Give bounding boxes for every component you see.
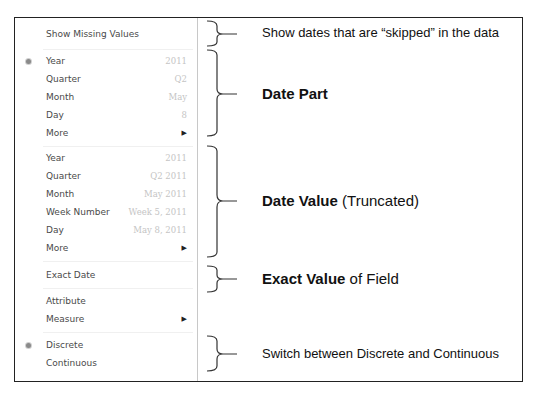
menu-item-date-part-year[interactable]: Year 2011	[15, 53, 197, 70]
menu-divider	[43, 261, 193, 262]
menu-item-date-value-month[interactable]: Month May 2011	[15, 186, 197, 203]
menu-item-measure[interactable]: Measure ▶	[15, 311, 197, 328]
annotation-text: (Truncated)	[338, 192, 419, 209]
diagram-stage: Show Missing Values Year 2011 Quarter Q2…	[0, 0, 537, 396]
menu-item-date-value-more[interactable]: More ▶	[15, 240, 197, 257]
menu-item-label: Day	[46, 222, 64, 239]
menu-item-value: Q2	[175, 71, 187, 88]
menu-item-label: More	[46, 125, 68, 142]
menu-item-date-value-day[interactable]: Day May 8, 2011	[15, 222, 197, 239]
annotation-text: Show dates that are “skipped” in the dat…	[262, 25, 499, 40]
menu-item-date-value-week-number[interactable]: Week Number Week 5, 2011	[15, 204, 197, 221]
submenu-arrow-icon: ▶	[182, 125, 187, 142]
menu-divider	[43, 288, 193, 289]
menu-item-date-part-month[interactable]: Month May	[15, 89, 197, 106]
menu-divider	[43, 49, 193, 50]
annotation-discrete-continuous: Switch between Discrete and Continuous	[262, 346, 499, 361]
menu-divider	[43, 146, 193, 147]
annotation-date-part: Date Part	[262, 85, 328, 102]
menu-item-attribute[interactable]: Attribute	[15, 293, 197, 310]
radio-selected-icon	[26, 59, 31, 64]
menu-item-label: Year	[46, 150, 65, 167]
menu-item-label: Show Missing Values	[46, 26, 139, 43]
menu-right-edge	[197, 18, 198, 381]
annotation-exact-value: Exact Value of Field	[262, 270, 399, 287]
menu-item-label: Exact Date	[46, 267, 95, 284]
menu-item-date-part-day[interactable]: Day 8	[15, 107, 197, 124]
menu-item-show-missing-values[interactable]: Show Missing Values	[15, 26, 197, 43]
menu-item-label: Month	[46, 89, 74, 106]
menu-item-label: More	[46, 240, 68, 257]
radio-selected-icon	[26, 343, 31, 348]
date-field-context-menu: Show Missing Values Year 2011 Quarter Q2…	[15, 18, 197, 381]
menu-item-exact-date[interactable]: Exact Date	[15, 267, 197, 284]
menu-divider	[43, 332, 193, 333]
annotation-show-missing: Show dates that are “skipped” in the dat…	[262, 25, 499, 40]
menu-item-label: Quarter	[46, 71, 81, 88]
menu-item-label: Measure	[46, 311, 84, 328]
annotation-text: of Field	[345, 270, 398, 287]
menu-item-label: Discrete	[46, 337, 83, 354]
menu-item-label: Attribute	[46, 293, 86, 310]
menu-item-date-value-year[interactable]: Year 2011	[15, 150, 197, 167]
menu-item-label: Quarter	[46, 168, 81, 185]
menu-item-value: Week 5, 2011	[129, 204, 187, 221]
annotation-date-value: Date Value (Truncated)	[262, 192, 419, 209]
menu-item-label: Month	[46, 186, 74, 203]
menu-item-value: 2011	[165, 150, 187, 167]
menu-item-value: May	[168, 89, 187, 106]
annotation-title: Date Value	[262, 192, 338, 209]
menu-item-value: Q2 2011	[150, 168, 187, 185]
menu-item-date-part-quarter[interactable]: Quarter Q2	[15, 71, 197, 88]
menu-item-date-value-quarter[interactable]: Quarter Q2 2011	[15, 168, 197, 185]
menu-item-label: Week Number	[46, 204, 110, 221]
menu-item-value: 2011	[165, 53, 187, 70]
submenu-arrow-icon: ▶	[182, 240, 187, 257]
menu-item-continuous[interactable]: Continuous	[15, 355, 197, 372]
menu-item-label: Year	[46, 53, 65, 70]
menu-item-value: 8	[182, 107, 187, 124]
menu-annotation-frame: Show Missing Values Year 2011 Quarter Q2…	[14, 17, 523, 382]
brace-icon	[205, 18, 245, 383]
menu-item-value: May 2011	[144, 186, 187, 203]
annotation-text: Switch between Discrete and Continuous	[262, 346, 499, 361]
menu-item-date-part-more[interactable]: More ▶	[15, 125, 197, 142]
annotation-title: Date Part	[262, 85, 328, 102]
menu-item-value: May 8, 2011	[133, 222, 187, 239]
annotation-title: Exact Value	[262, 270, 345, 287]
menu-item-label: Continuous	[46, 355, 97, 372]
submenu-arrow-icon: ▶	[182, 311, 187, 328]
menu-item-discrete[interactable]: Discrete	[15, 337, 197, 354]
menu-item-label: Day	[46, 107, 64, 124]
